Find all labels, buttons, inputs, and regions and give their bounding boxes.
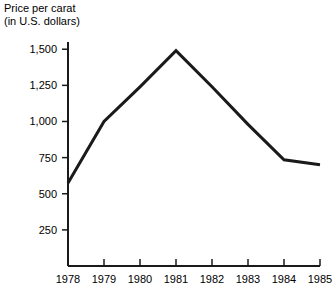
x-axis-tick-labels: 19781979198019811982198319841985: [56, 273, 332, 285]
x-axis-ticks: [68, 259, 320, 266]
x-axis-tick-label: 1981: [164, 273, 188, 285]
x-axis-tick-label: 1982: [200, 273, 224, 285]
y-axis-tick-labels: 2505007501,0001,2501,500: [29, 43, 57, 236]
x-axis-tick-label: 1978: [56, 273, 80, 285]
y-axis-group: 2505007501,0001,2501,500: [29, 42, 68, 266]
x-axis-group: 19781979198019811982198319841985: [56, 259, 332, 285]
chart-subtitle-line-2: (in U.S. dollars): [4, 15, 80, 28]
y-axis-tick-label: 500: [39, 188, 57, 200]
chart-title-line-1: Price per carat: [4, 2, 80, 15]
chart-title: Price per carat (in U.S. dollars): [4, 2, 80, 28]
x-axis-tick-label: 1980: [128, 273, 152, 285]
series-group: [68, 51, 320, 183]
y-axis-tick-label: 1,000: [29, 115, 57, 127]
chart-figure: Price per carat (in U.S. dollars) 250500…: [0, 0, 336, 291]
y-axis-tick-label: 250: [39, 224, 57, 236]
x-axis-tick-label: 1983: [236, 273, 260, 285]
x-axis-tick-label: 1979: [92, 273, 116, 285]
price-per-carat-line: [68, 51, 320, 183]
line-chart-plot: 2505007501,0001,2501,500 197819791980198…: [0, 0, 336, 291]
y-axis-tick-label: 750: [39, 152, 57, 164]
y-axis-tick-label: 1,500: [29, 43, 57, 55]
x-axis-tick-label: 1985: [308, 273, 332, 285]
y-axis-tick-label: 1,250: [29, 79, 57, 91]
x-axis-tick-label: 1984: [272, 273, 296, 285]
